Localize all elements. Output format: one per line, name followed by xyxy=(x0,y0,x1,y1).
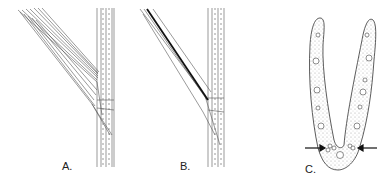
panel-label-b: B. xyxy=(180,160,190,172)
panel-b: B. xyxy=(125,0,250,192)
panel-a: A. xyxy=(0,0,125,192)
panel-label-a: A. xyxy=(62,160,72,172)
panel-c: C. xyxy=(250,0,377,192)
panel-label-c: C. xyxy=(305,163,316,175)
